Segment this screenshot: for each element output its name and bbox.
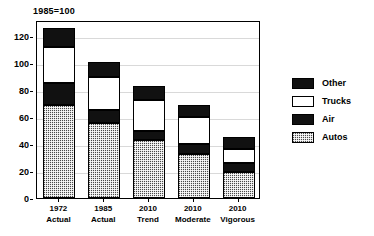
bar-segment-autos — [133, 140, 165, 198]
x-axis-tick-label: 2010Trend — [137, 203, 159, 225]
x-axis-label-scenario: Actual — [46, 214, 70, 225]
legend-swatch-air — [292, 114, 314, 125]
y-axis-tick-label: 0 — [24, 194, 29, 204]
x-axis-label-scenario: Trend — [137, 214, 159, 225]
bar-group — [88, 20, 120, 198]
x-axis-tick-label: 1985Actual — [91, 203, 115, 225]
bar-segment-trucks — [178, 117, 210, 144]
x-axis-tick-mark — [193, 199, 194, 202]
chart-title: 1985=100 — [33, 6, 75, 16]
bar-segment-other — [43, 28, 75, 47]
x-axis-label-year: 1985 — [91, 203, 115, 214]
x-axis-tick-mark — [103, 199, 104, 202]
bar-group — [223, 20, 255, 198]
bar-segment-other — [178, 105, 210, 117]
bar-segment-autos — [43, 105, 75, 198]
chart-legend: OtherTrucksAirAutos — [292, 76, 372, 148]
x-axis-label-scenario: Actual — [91, 214, 115, 225]
legend-item-air[interactable]: Air — [292, 112, 372, 129]
y-axis-tick-mark — [30, 91, 33, 92]
bar-segment-air — [223, 163, 255, 172]
bar-segment-trucks — [43, 47, 75, 83]
legend-item-autos[interactable]: Autos — [292, 130, 372, 147]
legend-swatch-autos — [292, 132, 314, 143]
y-axis-tick-label: 40 — [19, 140, 29, 150]
bar-segment-other — [88, 62, 120, 77]
y-axis-tick-label: 60 — [19, 113, 29, 123]
legend-swatch-other — [292, 78, 314, 89]
bar-segment-other — [223, 137, 255, 149]
y-axis-tick-mark — [30, 199, 33, 200]
x-axis-tick-label: 1972Actual — [46, 203, 70, 225]
x-axis-tick-mark — [148, 199, 149, 202]
y-axis: 020406080100120 — [0, 21, 33, 199]
x-axis-tick-mark — [58, 199, 59, 202]
bar-group — [133, 20, 165, 198]
legend-item-other[interactable]: Other — [292, 76, 372, 93]
bar-segment-air — [133, 131, 165, 140]
legend-item-trucks[interactable]: Trucks — [292, 94, 372, 111]
y-axis-tick-mark — [30, 37, 33, 38]
bar-group — [43, 20, 75, 198]
bar-segment-autos — [88, 123, 120, 199]
stacked-bar-chart: 1985=100 020406080100120 1972Actual1985A… — [0, 0, 374, 236]
y-axis-tick-mark — [30, 172, 33, 173]
y-axis-tick-label: 120 — [14, 32, 29, 42]
bar-segment-air — [43, 83, 75, 105]
x-axis-label-scenario: Moderate — [175, 214, 211, 225]
bar-segment-trucks — [223, 149, 255, 162]
y-axis-tick-label: 20 — [19, 167, 29, 177]
y-axis-tick-label: 80 — [19, 86, 29, 96]
x-axis-tick-label: 2010Vigorous — [220, 203, 255, 225]
x-axis-label-year: 2010 — [175, 203, 211, 214]
bar-segment-air — [88, 110, 120, 122]
y-axis-tick-label: 100 — [14, 59, 29, 69]
x-axis-label-year: 1972 — [46, 203, 70, 214]
bar-segment-autos — [223, 172, 255, 198]
x-axis-label-year: 2010 — [220, 203, 255, 214]
legend-label: Air — [322, 114, 335, 125]
bar-group — [178, 20, 210, 198]
legend-label: Other — [322, 78, 346, 89]
bar-segment-autos — [178, 154, 210, 199]
plot-area — [36, 21, 260, 199]
legend-label: Trucks — [322, 96, 351, 107]
x-axis-label-year: 2010 — [137, 203, 159, 214]
x-axis-label-scenario: Vigorous — [220, 214, 255, 225]
legend-label: Autos — [322, 132, 348, 143]
bar-segment-trucks — [88, 77, 120, 111]
legend-swatch-trucks — [292, 96, 314, 107]
bar-segment-trucks — [133, 100, 165, 131]
bar-segment-air — [178, 144, 210, 153]
y-axis-tick-mark — [30, 64, 33, 65]
y-axis-tick-mark — [30, 118, 33, 119]
x-axis-tick-mark — [238, 199, 239, 202]
bar-segment-other — [133, 86, 165, 99]
x-axis-tick-label: 2010Moderate — [175, 203, 211, 225]
y-axis-tick-mark — [30, 145, 33, 146]
